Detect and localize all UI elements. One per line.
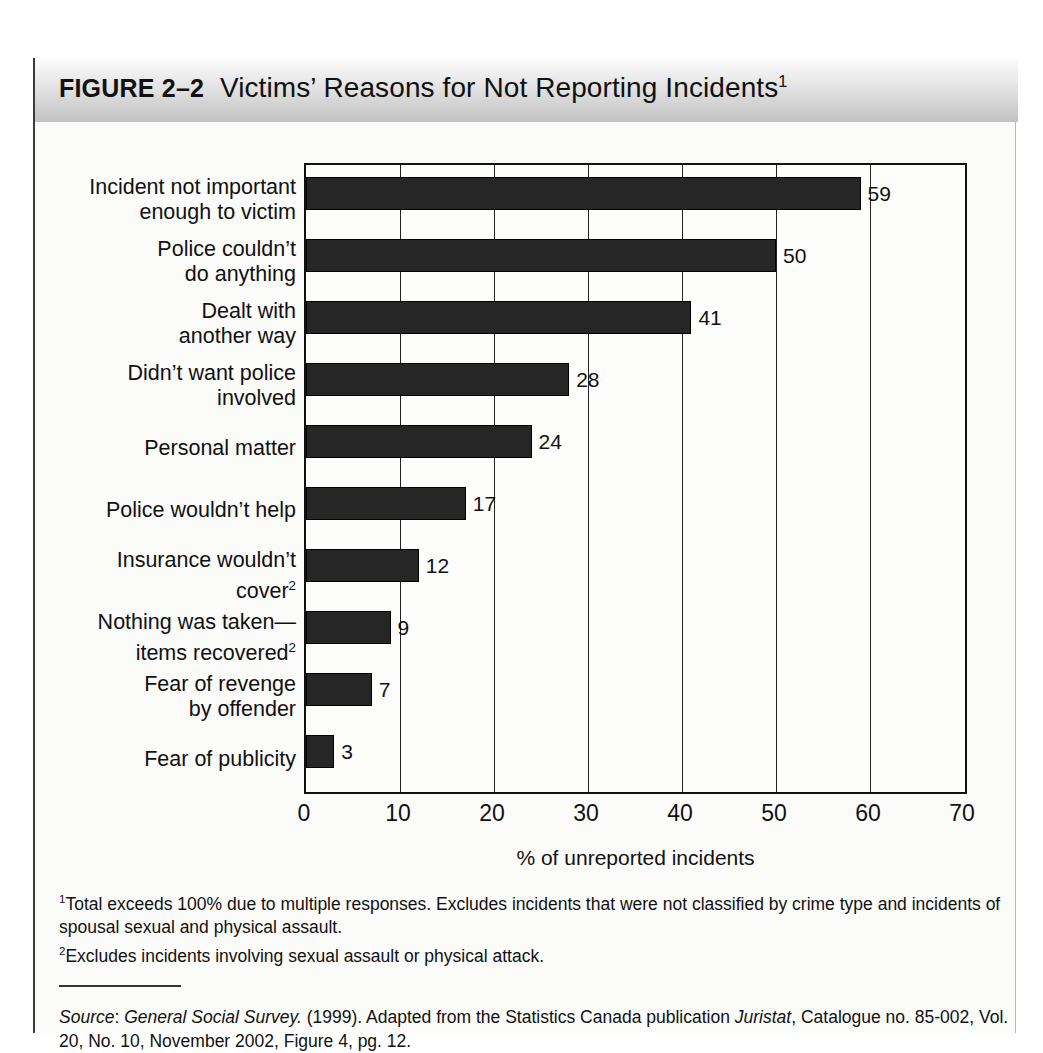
x-tick-label: 30 bbox=[573, 800, 599, 827]
bar-value-label: 41 bbox=[691, 301, 721, 334]
x-tick-label: 0 bbox=[298, 800, 311, 827]
x-axis-tick-labels: 0 10 20 30 40 50 60 70 bbox=[304, 800, 967, 834]
category-footnote-marker: 2 bbox=[289, 578, 296, 593]
footnote-2: 2Excludes incidents involving sexual ass… bbox=[59, 940, 1009, 968]
x-tick-label: 50 bbox=[761, 800, 787, 827]
figure-number: FIGURE 2–2 bbox=[59, 74, 204, 102]
figure-title-text: Victims’ Reasons for Not Reporting Incid… bbox=[220, 72, 778, 103]
bar[interactable] bbox=[306, 673, 372, 706]
x-tick-label: 70 bbox=[949, 800, 975, 827]
category-footnote-marker: 2 bbox=[289, 640, 296, 655]
bar[interactable] bbox=[306, 487, 466, 520]
bar-value-label: 17 bbox=[466, 487, 496, 520]
category-label: Fear of revenge by offender bbox=[42, 672, 304, 722]
bar[interactable] bbox=[306, 611, 391, 644]
bar-value-label: 50 bbox=[776, 239, 806, 272]
gridline-60 bbox=[870, 165, 871, 792]
source-journal: Juristat bbox=[735, 1007, 791, 1027]
category-label: Incident not important enough to victim bbox=[42, 175, 304, 225]
x-tick-label: 10 bbox=[385, 800, 411, 827]
x-tick-label: 20 bbox=[479, 800, 505, 827]
category-label: Personal matter bbox=[42, 436, 304, 461]
bar-value-label: 28 bbox=[569, 363, 599, 396]
x-tick-label: 40 bbox=[667, 800, 693, 827]
bar[interactable] bbox=[306, 177, 861, 210]
footnotes: 1Total exceeds 100% due to multiple resp… bbox=[59, 888, 1009, 969]
source-note: Source: General Social Survey. (1999). A… bbox=[59, 1005, 1009, 1053]
source-divider bbox=[59, 985, 181, 987]
bar[interactable] bbox=[306, 735, 334, 768]
figure-container: FIGURE 2–2 Victims’ Reasons for Not Repo… bbox=[33, 58, 1016, 1033]
category-label: Insurance wouldn’t cover2 bbox=[42, 548, 304, 604]
bar[interactable] bbox=[306, 363, 569, 396]
x-axis-title: % of unreported incidents bbox=[304, 846, 967, 870]
figure-title-band: FIGURE 2–2 Victims’ Reasons for Not Repo… bbox=[35, 58, 1018, 122]
title-footnote-marker: 1 bbox=[778, 72, 787, 90]
bar[interactable] bbox=[306, 301, 691, 334]
chart-area: Incident not important enough to victim … bbox=[35, 122, 1018, 912]
footnote-text: Total exceeds 100% due to multiple respo… bbox=[59, 894, 1000, 937]
category-label: Dealt with another way bbox=[42, 299, 304, 349]
bar[interactable] bbox=[306, 425, 532, 458]
category-label: Didn’t want police involved bbox=[42, 361, 304, 411]
source-mid-text: (1999). Adapted from the Statistics Cana… bbox=[302, 1007, 735, 1027]
bar-value-label: 3 bbox=[334, 735, 353, 768]
category-label: Police couldn’t do anything bbox=[42, 237, 304, 287]
y-axis-category-labels: Incident not important enough to victim … bbox=[35, 163, 304, 794]
footnote-1: 1Total exceeds 100% due to multiple resp… bbox=[59, 888, 1009, 939]
category-label: Nothing was taken— items recovered2 bbox=[42, 610, 304, 666]
plot-area: 59 50 41 28 24 17 bbox=[304, 163, 967, 794]
bar-value-label: 59 bbox=[861, 177, 891, 210]
footnote-text: Excludes incidents involving sexual assa… bbox=[65, 946, 544, 966]
category-label: Fear of publicity bbox=[42, 747, 304, 772]
source-publication: General Social Survey. bbox=[124, 1007, 302, 1027]
bar-value-label: 12 bbox=[419, 549, 449, 582]
bar[interactable] bbox=[306, 239, 776, 272]
bar-value-label: 7 bbox=[372, 673, 391, 706]
bar[interactable] bbox=[306, 549, 419, 582]
source-separator: : bbox=[114, 1007, 124, 1027]
x-tick-label: 60 bbox=[855, 800, 881, 827]
bar-value-label: 9 bbox=[391, 611, 410, 644]
page-title: FIGURE 2–2 Victims’ Reasons for Not Repo… bbox=[59, 72, 787, 104]
bar-value-label: 24 bbox=[532, 425, 562, 458]
category-label: Police wouldn’t help bbox=[42, 498, 304, 523]
source-prefix: Source bbox=[59, 1007, 114, 1027]
